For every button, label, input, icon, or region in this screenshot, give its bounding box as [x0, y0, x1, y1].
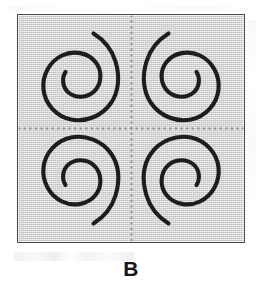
scan-artifact-right — [248, 20, 256, 210]
figure-root: B — [0, 0, 262, 289]
panel-canvas — [18, 15, 244, 242]
figure-caption: B — [0, 256, 262, 282]
spiral-top-left — [43, 34, 118, 121]
spiral-top-right — [144, 34, 219, 121]
spiral-bottom-left — [43, 137, 118, 224]
spiral-bottom-right — [144, 137, 219, 224]
scan-artifact-top — [8, 6, 254, 11]
figure-panel — [17, 14, 245, 243]
